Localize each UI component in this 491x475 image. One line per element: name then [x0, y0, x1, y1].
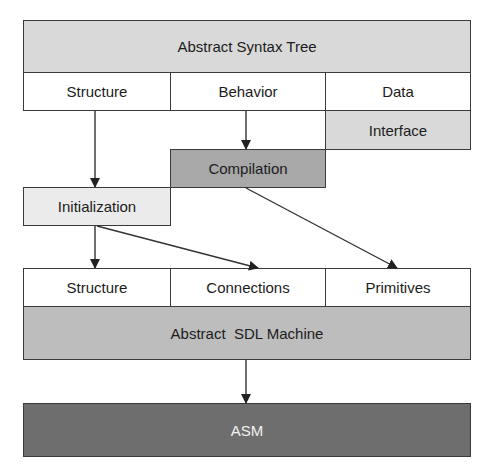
edge-initialization-to-connections — [97, 226, 258, 268]
edges-layer — [0, 0, 491, 475]
edge-compilation-to-primitives — [246, 188, 397, 268]
